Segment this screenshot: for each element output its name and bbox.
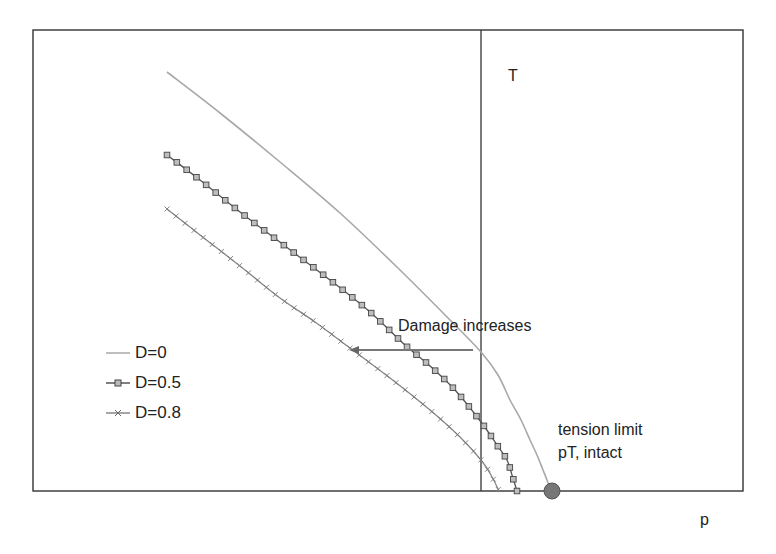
- x-axis-label: p: [700, 512, 709, 528]
- damage-annotation: Damage increases: [398, 318, 531, 334]
- legend-item-d05: D=0.5: [105, 373, 181, 393]
- series-layer: [164, 72, 551, 494]
- legend-cross-marker-icon: [105, 407, 131, 419]
- tension-annotation-line2: pT, intact: [558, 445, 622, 461]
- legend-label: D=0.5: [135, 373, 181, 393]
- legend-label: D=0.8: [135, 403, 181, 423]
- damage-arrow: [349, 346, 473, 354]
- chart-canvas: [0, 0, 776, 554]
- legend-line-icon: [105, 347, 131, 359]
- tension-annotation-line1: tension limit: [558, 422, 642, 438]
- y-axis-label: T: [508, 68, 518, 84]
- legend-item-d08: D=0.8: [105, 403, 181, 423]
- legend-item-d0: D=0: [105, 343, 167, 363]
- legend-square-marker-icon: [105, 377, 131, 389]
- series-d-0: [167, 72, 551, 491]
- tension-limit-marker: [544, 483, 560, 499]
- legend-label: D=0: [135, 343, 167, 363]
